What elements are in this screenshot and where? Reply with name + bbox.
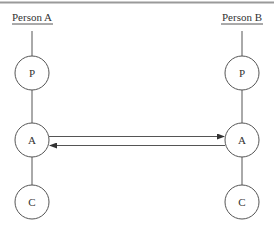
node-adult: A [225,123,259,157]
node-child: C [15,185,49,219]
lane-person-b: Person B P A C [221,11,263,219]
node-label: P [29,67,35,79]
node-adult: A [15,123,49,157]
node-label: C [238,196,245,208]
node-label: A [238,134,246,146]
transaction-diagram: Person A P A C Person B P A [0,0,274,230]
node-label: A [28,134,36,146]
node-child: C [225,185,259,219]
node-parent: P [15,56,49,90]
node-parent: P [225,56,259,90]
lane-title-person-a: Person A [12,11,52,23]
node-label: P [239,67,245,79]
node-label: C [28,196,35,208]
lane-title-person-b: Person B [222,11,262,23]
lane-person-a: Person A P A C [12,11,53,219]
